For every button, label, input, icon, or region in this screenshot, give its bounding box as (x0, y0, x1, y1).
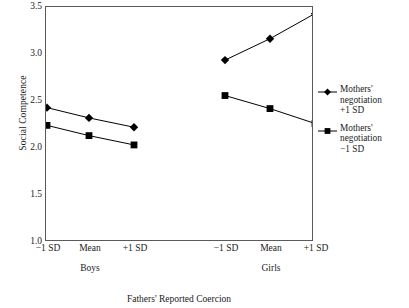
y-tick-label: 2.5 (20, 95, 42, 105)
group-label-boys: Boys (55, 263, 125, 273)
legend-label-line3: +1 SD (340, 105, 409, 116)
y-tick-label: 1.5 (20, 189, 42, 199)
data-series-layer (46, 7, 312, 240)
legend-label: Mothers' negotiation +1 SD (340, 84, 409, 116)
group-label-girls: Girls (236, 263, 306, 273)
legend-label-line2: negotiation (340, 133, 409, 144)
legend-entry: Mothers' negotiation +1 SD (318, 84, 409, 116)
y-tick-label: 3.5 (20, 1, 42, 11)
y-tick-label: 2.0 (20, 142, 42, 152)
x-tick-label: +1 SD (288, 243, 344, 253)
legend-label-line3: −1 SD (340, 144, 409, 155)
legend-entry: Mothers' negotiation −1 SD (318, 123, 409, 155)
legend-label: Mothers' negotiation −1 SD (340, 123, 409, 155)
chart-figure: Social Competence 3.5 3.0 2.5 2.0 1.5 1.… (0, 0, 409, 308)
chart-legend: Mothers' negotiation +1 SD Mothers' nego… (318, 84, 409, 162)
diamond-marker-icon (318, 88, 337, 96)
plot-area (45, 6, 313, 241)
y-tick-label: 3.0 (20, 48, 42, 58)
legend-label-line2: negotiation (340, 95, 409, 106)
x-axis-title: Fathers' Reported Coercion (45, 294, 313, 304)
y-axis-tick-labels: 3.5 3.0 2.5 2.0 1.5 1.0 (16, 0, 42, 308)
legend-label-line1: Mothers' (340, 123, 409, 134)
x-axis-tick-labels: −1 SD Mean +1 SD −1 SD Mean +1 SD (0, 243, 409, 259)
square-marker-icon (318, 127, 337, 135)
x-tick-label: +1 SD (107, 243, 163, 253)
x-axis-group-labels: Boys Girls (0, 263, 409, 279)
legend-label-line1: Mothers' (340, 84, 409, 95)
